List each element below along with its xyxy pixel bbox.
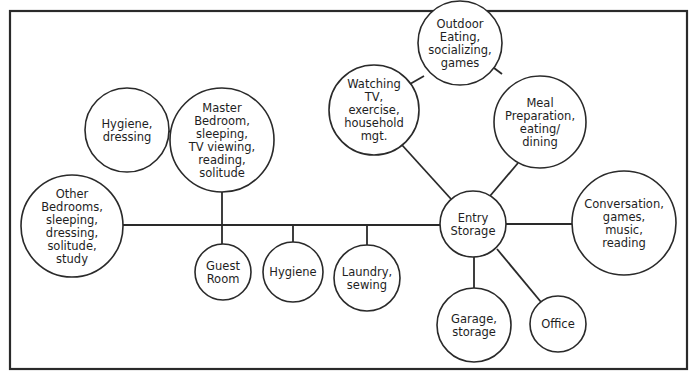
edge-outdoor-eating-meal-preparation bbox=[494, 68, 502, 74]
bubble-label: Hygiene,dressing bbox=[101, 117, 152, 144]
bubble-label: GuestRoom bbox=[206, 259, 240, 286]
bubble-office: Office bbox=[530, 296, 586, 352]
bubble-label: Hygiene bbox=[269, 265, 316, 279]
edge-watching-tv-outdoor-eating bbox=[410, 76, 424, 84]
bubble-label: Garage,storage bbox=[451, 312, 497, 339]
edge-watching-tv-entry-storage bbox=[402, 145, 451, 199]
edge-entry-storage-office bbox=[497, 249, 541, 302]
bubble-master-bedroom: MasterBedroom,sleeping,TV viewing,readin… bbox=[170, 88, 274, 192]
bubble-other-bedrooms: OtherBedrooms,sleeping,dressing,solitude… bbox=[21, 175, 123, 277]
bubble-conversation: Conversation,games,music,reading bbox=[572, 171, 676, 275]
bubble-label: Laundry,sewing bbox=[342, 265, 393, 292]
bubble-diagram: OtherBedrooms,sleeping,dressing,solitude… bbox=[0, 0, 694, 375]
bubble-meal-preparation: MealPreparation,eating/dining bbox=[494, 76, 586, 168]
bubble-entry-storage: EntryStorage bbox=[440, 191, 506, 257]
bubble-garage-storage: Garage,storage bbox=[437, 288, 511, 362]
activity-bubbles: OtherBedrooms,sleeping,dressing,solitude… bbox=[21, 1, 676, 362]
bubble-label: Office bbox=[541, 317, 575, 331]
bubble-guest-room: GuestRoom bbox=[195, 244, 251, 300]
bubble-watching-tv: WatchingTV,exercise,householdmgt. bbox=[329, 65, 419, 155]
bubble-laundry: Laundry,sewing bbox=[334, 245, 400, 311]
bubble-hygiene-dressing: Hygiene,dressing bbox=[85, 88, 169, 172]
bubble-outdoor-eating: OutdoorEating,socializing,games bbox=[418, 1, 502, 85]
edge-meal-preparation-entry-storage bbox=[490, 163, 518, 196]
bubble-hygiene: Hygiene bbox=[263, 242, 323, 302]
